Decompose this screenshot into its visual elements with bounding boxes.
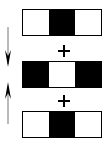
bar-middle (22, 61, 102, 88)
segment-white (23, 112, 49, 137)
segment-black (49, 112, 75, 137)
segment-white (23, 10, 49, 35)
bar-bottom (22, 111, 102, 138)
arrow-up-icon (5, 82, 11, 124)
segment-black (49, 10, 75, 35)
plus-icon (58, 45, 70, 57)
segment-black (23, 62, 49, 87)
bar-top (22, 9, 102, 36)
segment-black (75, 62, 101, 87)
segment-white (75, 10, 101, 35)
segment-white (75, 112, 101, 137)
arrow-down-icon (5, 27, 11, 67)
segment-white (49, 62, 75, 87)
plus-icon (58, 95, 70, 107)
